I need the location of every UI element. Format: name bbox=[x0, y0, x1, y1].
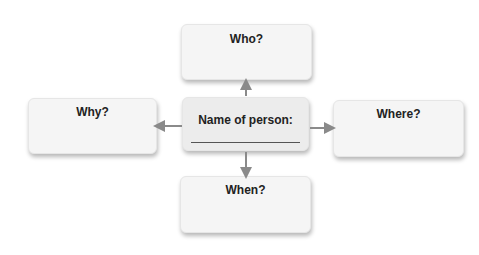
connector-arrows bbox=[0, 0, 479, 255]
